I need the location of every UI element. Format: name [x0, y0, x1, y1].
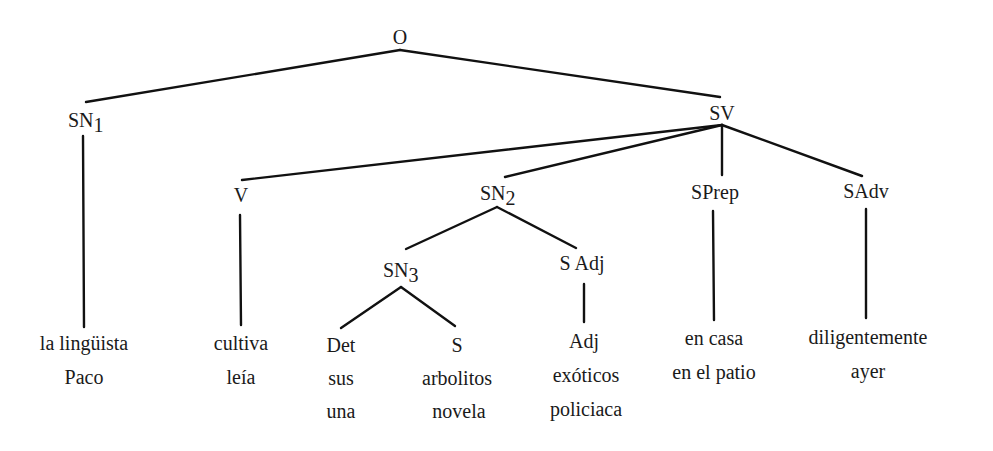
terminal-sprep-2: en el patio: [672, 361, 755, 384]
edge-sv-v: [242, 125, 722, 180]
terminal-s-1: arbolitos: [422, 367, 492, 389]
edge-sv-sadv: [722, 125, 862, 176]
terminal-adj-2: policiaca: [550, 398, 622, 421]
edge-o-sv: [400, 50, 720, 97]
edge-sn1-words: [83, 136, 84, 327]
edge-o-sn1: [86, 50, 400, 102]
terminal-det-1: sus: [328, 367, 354, 389]
terminal-v-2: leía: [227, 366, 256, 388]
terminal-sn1-1: la lingüista: [40, 332, 128, 355]
terminal-v-1: cultiva: [214, 332, 269, 354]
terminal-sprep-1: en casa: [685, 327, 743, 349]
terminal-det-2: una: [327, 400, 356, 422]
terminal-adj-label: Adj: [569, 330, 599, 353]
node-sprep: SPrep: [691, 181, 739, 204]
edge-sn2-sadj: [497, 207, 576, 248]
edge-sprep-words: [713, 211, 714, 320]
node-sn3: SN3: [383, 259, 419, 286]
tree-edges: [83, 50, 866, 328]
tree-terminals: la lingüista Paco cultiva leía Det sus u…: [40, 326, 928, 422]
edge-sn3-s: [401, 287, 455, 326]
edge-sn2-sn3: [406, 207, 497, 249]
node-sv: SV: [709, 102, 735, 124]
syntax-tree-diagram: O SN1 SV V SN2 SPrep SAdv SN3 S Adj la l…: [0, 0, 993, 451]
node-sadj: S Adj: [559, 252, 604, 275]
node-v: V: [234, 184, 249, 206]
edge-sn3-det: [341, 287, 401, 328]
terminal-sadv-1: diligentemente: [809, 326, 928, 349]
terminal-s-label: S: [451, 334, 462, 356]
node-sn1: SN1: [68, 109, 104, 136]
terminal-sadv-2: ayer: [851, 360, 886, 383]
node-o: O: [393, 26, 407, 48]
edge-v-words: [240, 215, 241, 325]
terminal-s-2: novela: [432, 400, 485, 422]
tree-nodes: O SN1 SV V SN2 SPrep SAdv SN3 S Adj: [68, 26, 889, 286]
terminal-det-label: Det: [327, 334, 356, 356]
terminal-sn1-2: Paco: [65, 366, 104, 388]
terminal-adj-1: exóticos: [553, 364, 620, 386]
node-sadv: SAdv: [843, 180, 889, 202]
edge-sv-sn2: [505, 125, 722, 177]
node-sn2: SN2: [480, 182, 516, 209]
